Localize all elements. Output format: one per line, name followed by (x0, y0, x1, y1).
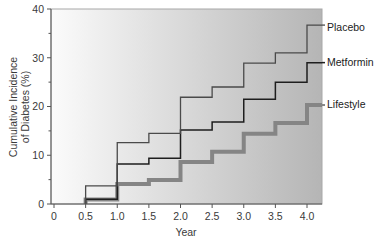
x-tick-label: 3.0 (236, 210, 251, 222)
legend-label-metformin: Metformin (327, 56, 374, 68)
y-tick-label: 20 (32, 100, 44, 112)
x-tick-label: 1.5 (142, 210, 157, 222)
y-tick-label: 30 (32, 52, 44, 64)
x-tick-label: 2.5 (205, 210, 220, 222)
x-tick-label: 4.0 (300, 210, 315, 222)
y-tick-label: 0 (38, 198, 44, 210)
legend: PlaceboMetforminLifestyle (322, 21, 374, 110)
legend-label-lifestyle: Lifestyle (327, 98, 366, 110)
x-tick-label: 0.5 (78, 210, 93, 222)
x-tick-label: 3.5 (268, 210, 283, 222)
x-tick-label: 1.0 (110, 210, 125, 222)
y-tick-label: 10 (32, 149, 44, 161)
y-axis-title-line-2: of Diabetes (%) (19, 71, 31, 143)
legend-label-placebo: Placebo (327, 21, 365, 33)
x-tick-label: 0 (51, 210, 57, 222)
plot-area (51, 9, 322, 204)
x-axis-title: Year (175, 226, 197, 238)
step-chart: 010203040 00.51.01.52.02.53.03.54.0 Plac… (0, 0, 383, 244)
y-axis-ticks: 010203040 (32, 3, 51, 210)
x-axis-ticks: 00.51.01.52.02.53.03.54.0 (51, 204, 314, 222)
y-axis-title-line-1: Cumulative Incidence (7, 57, 19, 158)
x-tick-label: 2.0 (173, 210, 188, 222)
y-tick-label: 40 (32, 3, 44, 15)
y-axis-title: Cumulative Incidence of Diabetes (%) (7, 57, 31, 158)
